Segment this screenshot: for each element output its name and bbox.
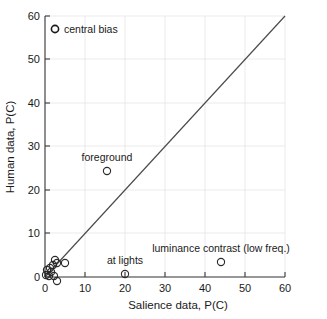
y-tick-label-50: 50: [28, 53, 40, 65]
annotation-at-lights: at lights: [107, 254, 143, 266]
y-tick-label-20: 20: [28, 184, 40, 196]
y-tick-label-60: 60: [28, 10, 40, 22]
x-tick-label-0: 0: [42, 282, 48, 294]
x-tick-label-20: 20: [119, 282, 131, 294]
x-tick-label-30: 30: [159, 282, 171, 294]
y-axis-title: Human data, P(C): [4, 100, 16, 193]
x-tick-label-60: 60: [279, 282, 291, 294]
x-tick-label-10: 10: [79, 282, 91, 294]
y-tick-label-10: 10: [28, 227, 40, 239]
x-axis-title: Salience data, P(C): [128, 299, 228, 311]
scatter-plot-figure: 0 10 20 30 40 50 60 Human data, P(C) 0 1…: [0, 0, 327, 319]
x-tick-label-50: 50: [239, 282, 251, 294]
annotation-foreground: foreground: [82, 151, 133, 163]
y-tick-label-0: 0: [34, 271, 40, 283]
y-tick-label-40: 40: [28, 97, 40, 109]
y-tick-label-30: 30: [28, 140, 40, 152]
plot-canvas: 0 10 20 30 40 50 60 Human data, P(C) 0 1…: [0, 0, 327, 319]
annotation-central-bias: central bias: [64, 23, 118, 35]
annotation-luminance-contrast: luminance contrast (low freq.): [152, 242, 290, 254]
x-tick-label-40: 40: [199, 282, 211, 294]
